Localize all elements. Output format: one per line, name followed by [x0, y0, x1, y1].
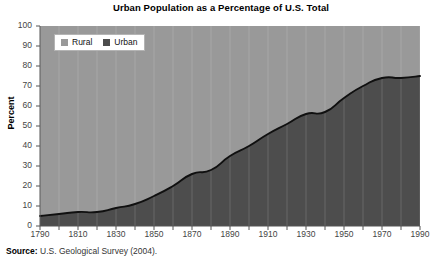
x-axis-tick-label: 1890: [210, 230, 250, 239]
x-axis-tick-label: 1990: [400, 230, 440, 239]
x-axis-tick-label: 1930: [286, 230, 326, 239]
x-axis-tick-label: 1870: [172, 230, 212, 239]
legend-label-urban: Urban: [114, 38, 137, 47]
x-axis-tick-label: 1970: [362, 230, 402, 239]
chart-figure: Urban Population as a Percentage of U.S.…: [0, 0, 442, 262]
legend-item-rural[interactable]: Rural: [61, 38, 92, 47]
source-text: U.S. Geological Survey (2004).: [38, 246, 158, 256]
legend-swatch-rural: [61, 39, 68, 46]
legend-swatch-urban: [103, 39, 110, 46]
legend-label-rural: Rural: [72, 38, 92, 47]
x-axis-tick-label: 1950: [324, 230, 364, 239]
legend-item-urban[interactable]: Urban: [103, 38, 137, 47]
x-axis-tick-label: 1830: [96, 230, 136, 239]
x-axis-tick-label: 1790: [20, 230, 60, 239]
x-axis-tick-label: 1910: [248, 230, 288, 239]
chart-legend: Rural Urban: [54, 34, 145, 51]
plot-area: Percent 0102030405060708090100 179018101…: [0, 0, 442, 240]
source-label: Source:: [6, 246, 38, 256]
x-axis-tick-label: 1850: [134, 230, 174, 239]
source-note: Source: U.S. Geological Survey (2004).: [6, 246, 157, 256]
x-axis-tick-label: 1810: [58, 230, 98, 239]
